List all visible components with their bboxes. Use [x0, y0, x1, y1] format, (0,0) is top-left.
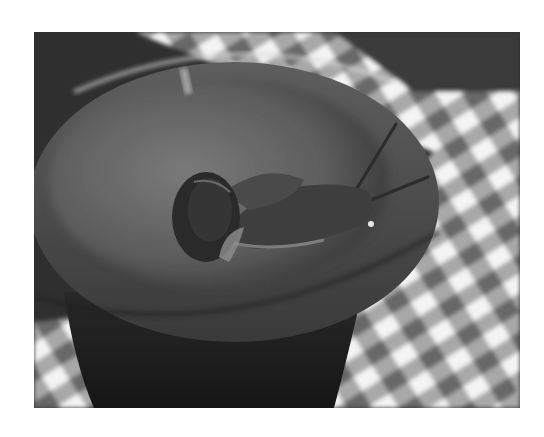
- photo: Black-and-white photo of a garden snail …: [34, 32, 520, 408]
- snail-photo-illustration: [34, 32, 520, 408]
